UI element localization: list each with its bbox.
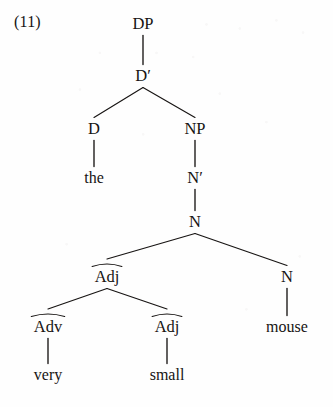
tree-node-dbar: D′ <box>135 68 151 85</box>
tree-edge-n-top-to-adj-upper <box>107 234 195 260</box>
tree-node-n-right: N <box>281 269 293 286</box>
tree-edge-adj-upper-to-adj-lower <box>107 289 167 310</box>
syntax-tree-figure: (11) DPD′DNPtheN′NAdjNAdvAdjmouseverysma… <box>0 0 333 407</box>
tree-node-np: NP <box>184 121 205 138</box>
tree-edge-adj-upper-to-adv <box>48 289 107 310</box>
tree-node-adv: Adv <box>34 319 62 336</box>
tree-node-nbar: N′ <box>187 170 203 187</box>
tree-edge-n-top-to-n-right <box>195 234 287 266</box>
tree-node-small: small <box>150 367 185 383</box>
tree-node-adj-lower: Adj <box>155 319 180 336</box>
tree-edge-dbar-to-d <box>94 88 143 118</box>
tree-node-d: D <box>88 121 100 138</box>
tree-node-dp: DP <box>132 16 153 33</box>
tree-node-n-top: N <box>189 214 201 231</box>
tree-node-the: the <box>84 170 104 186</box>
tree-branch-lines <box>0 0 333 407</box>
tree-node-very: very <box>34 367 62 383</box>
tree-node-mouse: mouse <box>266 319 308 335</box>
tree-node-adj-upper: Adj <box>95 269 120 286</box>
tree-edge-dbar-to-np <box>143 88 195 118</box>
